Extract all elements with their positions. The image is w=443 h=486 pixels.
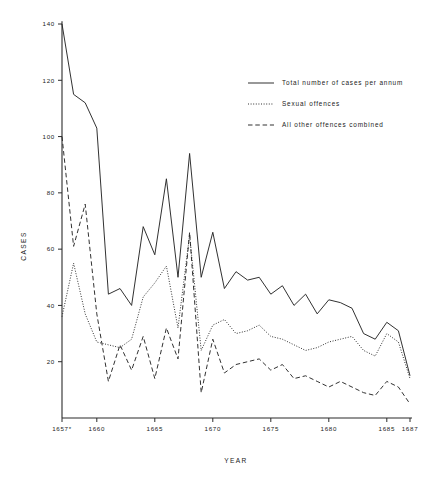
chart-canvas: 20406080100120140 1657*16601665167016751… [0,0,443,486]
x-tick-label: 1685 [379,425,396,432]
series-line-1 [62,235,410,379]
y-tick-label: 140 [43,20,55,27]
y-tick-label: 80 [47,189,55,196]
legend-label-1: Sexual offences [282,100,340,107]
y-tick-label: 100 [43,133,55,140]
series-line-2 [62,137,410,404]
series-line-0 [62,24,410,376]
legend-label-0: Total number of cases per annum [282,79,403,87]
x-tick-label: 1670 [205,425,222,432]
x-tick-label: 1657* [52,425,72,432]
y-tick-label: 120 [43,77,55,84]
y-tick-label: 60 [47,245,55,252]
x-tick-label: 1660 [89,425,106,432]
x-axis-ticks: 1657*1660166516701675168016851687 [52,418,418,432]
chart-figure: 20406080100120140 1657*16601665167016751… [0,0,443,486]
legend: Total number of cases per annumSexual of… [248,79,403,128]
x-tick-label: 1687 [402,425,419,432]
x-tick-label: 1675 [263,425,280,432]
x-tick-label: 1680 [321,425,338,432]
y-tick-label: 20 [47,358,55,365]
y-axis-title: CASES [20,231,27,260]
x-tick-label: 1665 [147,425,164,432]
y-axis-ticks: 20406080100120140 [43,20,62,365]
x-axis-title: YEAR [224,457,248,464]
y-tick-label: 40 [47,302,55,309]
legend-label-2: All other offences combined [282,121,384,128]
